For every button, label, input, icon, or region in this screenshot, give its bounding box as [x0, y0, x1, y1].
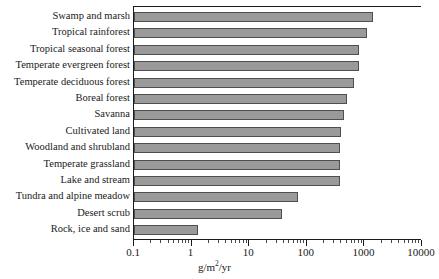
x-tick-minor — [358, 240, 359, 243]
x-tick-minor — [398, 240, 399, 243]
x-tick-minor — [323, 240, 324, 243]
bar — [134, 225, 198, 235]
x-tick-minor — [246, 240, 247, 243]
x-tick-minor — [333, 240, 334, 243]
x-tick-minor — [288, 240, 289, 243]
x-tick-minor — [412, 240, 413, 243]
x-tick-minor — [340, 240, 341, 243]
category-label: Woodland and shrubland — [3, 141, 133, 152]
x-tick-minor — [160, 240, 161, 243]
category-label: Savanna — [3, 108, 133, 119]
category-labels: Swamp and marshTropical rainforestTropic… — [0, 6, 133, 240]
x-tick-minor — [231, 240, 232, 243]
plot-area — [133, 6, 421, 240]
bar — [134, 45, 359, 55]
x-tick-label: 100 — [276, 246, 336, 258]
category-label: Swamp and marsh — [3, 10, 133, 21]
x-tick-label: 10 — [218, 246, 278, 258]
x-tick-minor — [208, 240, 209, 243]
x-tick-minor — [243, 240, 244, 243]
category-label: Tropical seasonal forest — [3, 43, 133, 54]
bar — [134, 94, 347, 104]
x-tick-label: 10000 — [391, 246, 439, 258]
x-tick-minor — [225, 240, 226, 243]
x-tick-minor — [381, 240, 382, 243]
category-label: Desert scrub — [3, 207, 133, 218]
x-tick-label: 1 — [161, 246, 221, 258]
category-label: Tropical rainforest — [3, 26, 133, 37]
x-tick-minor — [188, 240, 189, 243]
x-tick-minor — [391, 240, 392, 243]
category-label: Lake and stream — [3, 174, 133, 185]
bar — [134, 110, 344, 120]
x-tick-label: 1000 — [333, 246, 393, 258]
x-tick-minor — [404, 240, 405, 243]
x-tick-minor — [418, 240, 419, 243]
x-tick-minor — [408, 240, 409, 243]
x-tick-minor — [346, 240, 347, 243]
x-tick-minor — [178, 240, 179, 243]
x-tick-minor — [354, 240, 355, 243]
bar — [134, 127, 341, 137]
x-tick-minor — [239, 240, 240, 243]
x-tick-minor — [168, 240, 169, 243]
x-tick-minor — [235, 240, 236, 243]
x-tick-minor — [283, 240, 284, 243]
category-label: Temperate grassland — [3, 158, 133, 169]
bar — [134, 143, 340, 153]
x-tick-label: 0.1 — [103, 246, 163, 258]
x-tick-minor — [182, 240, 183, 243]
bar — [134, 176, 340, 186]
x-tick-minor — [297, 240, 298, 243]
bar — [134, 28, 367, 38]
x-tick-minor — [185, 240, 186, 243]
category-label: Temperate evergreen forest — [3, 59, 133, 70]
x-tick-minor — [276, 240, 277, 243]
category-label: Temperate deciduous forest — [3, 76, 133, 87]
bar — [134, 78, 354, 88]
x-tick-minor — [293, 240, 294, 243]
x-tick-minor — [173, 240, 174, 243]
x-axis-title-after: /yr — [219, 261, 231, 273]
x-tick-minor — [150, 240, 151, 243]
bar — [134, 61, 359, 71]
x-tick-minor — [300, 240, 301, 243]
category-label: Boreal forest — [3, 92, 133, 103]
x-axis-title-before: g/m — [198, 261, 215, 273]
x-tick-minor — [266, 240, 267, 243]
x-tick-minor — [351, 240, 352, 243]
category-label: Cultivated land — [3, 125, 133, 136]
x-tick-minor — [361, 240, 362, 243]
category-label: Rock, ice and sand — [3, 223, 133, 234]
x-tick-minor — [303, 240, 304, 243]
x-tick-minor — [218, 240, 219, 243]
bar — [134, 12, 373, 22]
x-axis-title: g/m2/yr — [0, 259, 429, 273]
bar — [134, 192, 298, 202]
category-label: Tundra and alpine meadow — [3, 190, 133, 201]
bar — [134, 160, 340, 170]
bar — [134, 209, 282, 219]
x-tick-minor — [415, 240, 416, 243]
